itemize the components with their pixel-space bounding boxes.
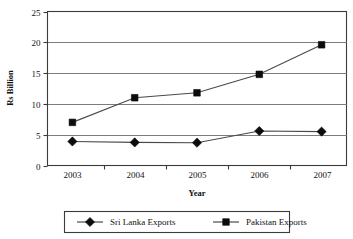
series-line [72,45,321,123]
square-marker-icon [223,219,230,226]
legend-label: Sri Lanka Exports [110,217,176,227]
legend-label: Pakistan Exports [246,217,307,227]
data-point-marker [194,90,201,97]
series-layer [68,41,326,147]
gridlines [48,43,347,136]
data-point-marker [68,137,77,146]
y-tick-label: 5 [36,131,41,141]
data-point-marker [130,138,139,147]
y-tick-label: 20 [32,38,42,48]
y-tick-label: 15 [32,69,42,79]
x-tick-label: 2003 [64,170,83,180]
line-chart: 0510152025 20032004200520062007 Rs Billi… [0,0,353,239]
data-point-marker [318,41,325,48]
data-point-marker [131,94,138,101]
data-point-marker [256,71,263,78]
chart-canvas: 0510152025 20032004200520062007 Rs Billi… [0,0,353,239]
x-tick-label: 2005 [189,170,208,180]
x-tick-label: 2004 [127,170,146,180]
x-axis-title: Year [189,188,206,198]
y-axis-tick-labels: 0510152025 [32,8,42,172]
y-tick-label: 25 [32,8,42,18]
x-tick-label: 2006 [251,170,270,180]
data-point-marker [255,126,264,135]
data-point-marker [192,138,201,147]
data-point-marker [317,127,326,136]
y-axis-ticks [44,13,48,167]
data-point-marker [69,119,76,126]
y-tick-label: 10 [32,100,42,110]
x-tick-label: 2007 [314,170,333,180]
y-axis-title: Rs Billion [5,70,15,106]
y-tick-label: 0 [36,162,41,172]
x-axis-tick-labels: 20032004200520062007 [64,170,333,180]
